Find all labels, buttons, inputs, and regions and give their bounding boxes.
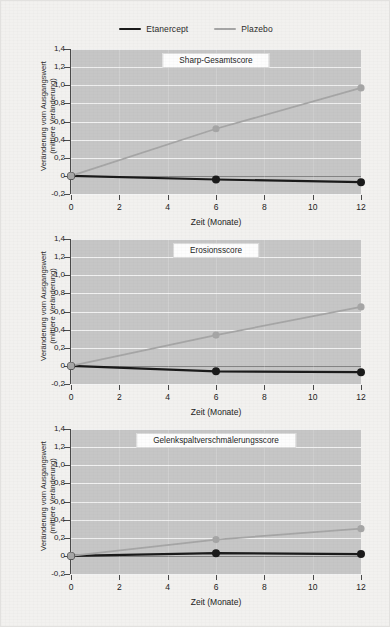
chart-panel-gelenkspaltverschmaelerungsscore: Veränderung vom Ausgangswert (mittlere V…: [1, 421, 390, 617]
x-tick-mark: [313, 385, 314, 390]
x-tick-mark: [361, 195, 362, 200]
legend-swatch-icon: [214, 28, 236, 31]
x-tick-label: 4: [153, 202, 183, 212]
x-tick-mark: [71, 575, 72, 580]
plot-area: Sharp-Gesamtscore: [71, 49, 361, 194]
series-layer: [71, 49, 361, 194]
chart-panel-erosionsscore: Veränderung vom Ausgangswert (mittlere V…: [1, 231, 390, 427]
y-axis-ticks: 1,41,21,00,80,60,40,20-0,2: [19, 239, 65, 384]
y-tick-label: 0,8: [23, 289, 65, 297]
x-tick-mark: [71, 195, 72, 200]
y-tick-label: 1,0: [23, 461, 65, 469]
x-tick-label: 6: [201, 582, 231, 592]
y-axis-ticks: 1,41,21,00,80,60,40,20-0,2: [19, 49, 65, 194]
x-tick-label: 8: [249, 392, 279, 402]
x-tick-label: 0: [56, 392, 86, 402]
y-tick-label: 1,4: [23, 45, 65, 53]
y-tick-label: 0,2: [23, 154, 65, 162]
y-tick-label: 0,2: [23, 344, 65, 352]
legend-item-etanercept: Etanercept: [119, 24, 188, 34]
y-tick-label: 0,6: [23, 118, 65, 126]
y-tick-label: 0,6: [23, 498, 65, 506]
x-tick-mark: [71, 385, 72, 390]
x-tick-mark: [168, 575, 169, 580]
y-tick-label: 1,2: [23, 443, 65, 451]
x-axis-label: Zeit (Monate): [71, 597, 361, 607]
plot-area: Erosionsscore: [71, 239, 361, 384]
x-tick-label: 6: [201, 392, 231, 402]
data-point-plazebo: [357, 303, 364, 310]
y-tick-label: 0,4: [23, 136, 65, 144]
data-point-etanercept: [357, 178, 365, 186]
data-point-plazebo: [212, 125, 219, 132]
y-tick-label: -0,2: [23, 380, 65, 388]
x-tick-mark: [216, 195, 217, 200]
x-tick-label: 4: [153, 582, 183, 592]
x-axis-label: Zeit (Monate): [71, 217, 361, 227]
x-tick-mark: [119, 385, 120, 390]
data-point-etanercept: [212, 176, 220, 184]
x-tick-label: 4: [153, 392, 183, 402]
x-tick-mark: [361, 575, 362, 580]
legend-label: Plazebo: [241, 24, 272, 34]
data-point-plazebo: [212, 536, 219, 543]
x-tick-mark: [216, 385, 217, 390]
y-tick-label: 1,4: [23, 235, 65, 243]
x-tick-label: 10: [298, 202, 328, 212]
y-tick-label: 0,4: [23, 326, 65, 334]
y-tick-label: -0,2: [23, 190, 65, 198]
panel-title: Erosionsscore: [173, 243, 259, 258]
y-tick-label: 1,0: [23, 81, 65, 89]
x-tick-label: 12: [346, 392, 376, 402]
y-tick-label: 1,0: [23, 271, 65, 279]
y-tick-label: -0,2: [23, 570, 65, 578]
data-point-plazebo: [67, 552, 74, 559]
x-tick-label: 12: [346, 202, 376, 212]
x-tick-mark: [361, 385, 362, 390]
x-tick-label: 0: [56, 582, 86, 592]
y-tick-label: 0,8: [23, 99, 65, 107]
x-tick-mark: [168, 385, 169, 390]
y-tick-label: 0: [23, 362, 65, 370]
y-tick-label: 1,2: [23, 253, 65, 261]
x-tick-label: 2: [104, 582, 134, 592]
y-tick-label: 0: [23, 552, 65, 560]
data-point-plazebo: [357, 525, 364, 532]
x-tick-label: 10: [298, 582, 328, 592]
x-tick-label: 8: [249, 582, 279, 592]
y-tick-label: 0,2: [23, 534, 65, 542]
figure-container: EtanerceptPlazebo Veränderung vom Ausgan…: [0, 0, 390, 627]
x-axis-label: Zeit (Monate): [71, 407, 361, 417]
x-tick-label: 0: [56, 202, 86, 212]
x-tick-label: 6: [201, 202, 231, 212]
legend-item-plazebo: Plazebo: [214, 24, 272, 34]
x-tick-mark: [216, 575, 217, 580]
y-axis-ticks: 1,41,21,00,80,60,40,20-0,2: [19, 429, 65, 574]
data-point-plazebo: [212, 331, 219, 338]
x-tick-mark: [168, 195, 169, 200]
y-tick-label: 1,2: [23, 63, 65, 71]
chart-panel-sharp-gesamtscore: Veränderung vom Ausgangswert (mittlere V…: [1, 41, 390, 237]
plot-area: Gelenkspaltverschmälerungsscore: [71, 429, 361, 574]
x-tick-label: 10: [298, 392, 328, 402]
data-point-etanercept: [357, 550, 365, 558]
panel-title: Gelenkspaltverschmälerungsscore: [136, 433, 296, 448]
x-tick-label: 2: [104, 392, 134, 402]
x-tick-mark: [264, 195, 265, 200]
data-point-etanercept: [212, 549, 220, 557]
data-point-etanercept: [212, 367, 220, 375]
y-tick-label: 1,4: [23, 425, 65, 433]
x-tick-mark: [264, 575, 265, 580]
data-point-plazebo: [357, 84, 364, 91]
data-point-plazebo: [67, 362, 74, 369]
legend-swatch-icon: [119, 28, 141, 31]
y-tick-label: 0: [23, 172, 65, 180]
y-tick-label: 0,4: [23, 516, 65, 524]
x-tick-mark: [313, 195, 314, 200]
data-point-etanercept: [357, 368, 365, 376]
y-tick-label: 0,8: [23, 479, 65, 487]
panel-title: Sharp-Gesamtscore: [162, 53, 269, 68]
x-tick-mark: [119, 575, 120, 580]
y-tick-label: 0,6: [23, 308, 65, 316]
series-layer: [71, 239, 361, 384]
